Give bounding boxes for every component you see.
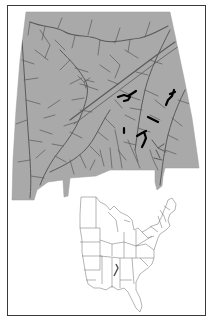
alabama-map: [12, 12, 199, 200]
eastern-us-outline: [80, 197, 176, 312]
alabama-outline: [12, 12, 199, 200]
figure-canvas: [0, 0, 218, 325]
eastern-us-inset: [80, 197, 176, 312]
